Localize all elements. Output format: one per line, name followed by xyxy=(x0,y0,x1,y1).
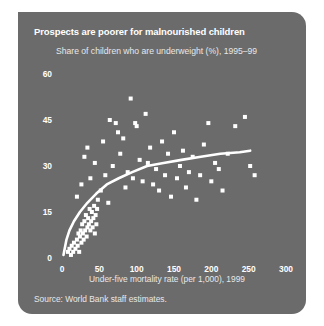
y-tick-label: 60 xyxy=(36,69,52,79)
scatter-point xyxy=(213,161,217,165)
scatter-point xyxy=(169,195,173,199)
scatter-plot-area: 015304560 050100150200250300 xyxy=(18,12,306,284)
scatter-point xyxy=(101,139,105,143)
scatter-point xyxy=(123,185,127,189)
scatter-point xyxy=(166,152,170,156)
scatter-point xyxy=(91,225,95,229)
scatter-point xyxy=(154,167,158,171)
scatter-point xyxy=(93,161,97,165)
scatter-point xyxy=(187,170,191,174)
scatter-point xyxy=(95,207,99,211)
scatter-plot-svg xyxy=(18,12,306,284)
scatter-point xyxy=(114,121,118,125)
scatter-point xyxy=(82,155,86,159)
scatter-point xyxy=(126,170,130,174)
scatter-point xyxy=(172,130,176,134)
scatter-point xyxy=(85,235,89,239)
scatter-point xyxy=(96,198,100,202)
scatter-point xyxy=(99,189,103,193)
trend-curve xyxy=(63,151,250,255)
scatter-point xyxy=(75,195,79,199)
scatter-point xyxy=(217,167,221,171)
scatter-point xyxy=(175,176,179,180)
scatter-point xyxy=(206,121,210,125)
x-tick-label: 0 xyxy=(51,264,73,274)
y-tick-label: 45 xyxy=(36,115,52,125)
scatter-point xyxy=(129,97,133,101)
scatter-point xyxy=(151,182,155,186)
scatter-point xyxy=(178,164,182,168)
y-tick-label: 0 xyxy=(36,253,52,263)
figure-panel: Prospects are poorer for malnourished ch… xyxy=(18,12,306,314)
scatter-point xyxy=(248,164,252,168)
scatter-point xyxy=(253,173,257,177)
scatter-point xyxy=(103,173,107,177)
scatter-point xyxy=(226,152,230,156)
y-tick-label: 30 xyxy=(36,161,52,171)
scatter-point xyxy=(76,244,80,248)
scatter-markers xyxy=(66,97,257,257)
scatter-point xyxy=(111,164,115,168)
x-tick-label: 250 xyxy=(238,264,260,274)
scatter-point xyxy=(79,182,83,186)
scatter-point xyxy=(233,124,237,128)
scatter-point xyxy=(160,139,164,143)
scatter-point xyxy=(93,231,97,235)
trend-line xyxy=(63,151,250,255)
scatter-point xyxy=(116,130,120,134)
scatter-point xyxy=(94,213,98,217)
scatter-point xyxy=(181,149,185,153)
scatter-point xyxy=(141,179,145,183)
scatter-point xyxy=(194,198,198,202)
scatter-point xyxy=(146,161,150,165)
scatter-point xyxy=(121,136,125,140)
scatter-point xyxy=(221,189,225,193)
scatter-point xyxy=(243,115,247,119)
y-tick-label: 15 xyxy=(36,207,52,217)
scatter-point xyxy=(94,222,98,226)
x-tick-label: 100 xyxy=(126,264,148,274)
x-tick-label: 200 xyxy=(200,264,222,274)
scatter-point xyxy=(82,219,86,223)
scatter-point xyxy=(157,189,161,193)
scatter-point xyxy=(106,201,110,205)
x-tick-label: 150 xyxy=(163,264,185,274)
scatter-point xyxy=(209,179,213,183)
scatter-point xyxy=(131,176,135,180)
scatter-point xyxy=(148,146,152,150)
scatter-point xyxy=(202,143,206,147)
scatter-point xyxy=(163,173,167,177)
scatter-point xyxy=(184,185,188,189)
scatter-point xyxy=(191,155,195,159)
scatter-point xyxy=(144,112,148,116)
x-tick-label: 300 xyxy=(275,264,297,274)
scatter-point xyxy=(90,210,94,214)
scatter-point xyxy=(118,152,122,156)
scatter-point xyxy=(198,173,202,177)
scatter-point xyxy=(77,250,81,254)
source-note: Source: World Bank staff estimates. xyxy=(34,294,167,304)
scatter-point xyxy=(135,124,139,128)
x-axis-title: Under-five mortality rate (per 1,000), 1… xyxy=(52,274,282,284)
scatter-point xyxy=(85,146,89,150)
scatter-point xyxy=(88,176,92,180)
scatter-point xyxy=(138,158,142,162)
scatter-point xyxy=(108,118,112,122)
x-tick-label: 50 xyxy=(88,264,110,274)
